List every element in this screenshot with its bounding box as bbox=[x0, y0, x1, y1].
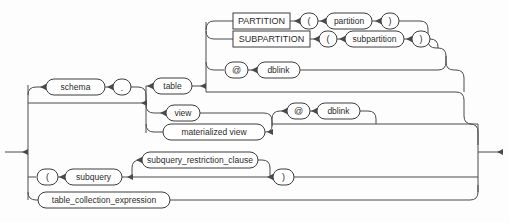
dblink-table-label: dblink bbox=[267, 65, 290, 75]
node-rparen-subquery: ) bbox=[273, 169, 294, 185]
subquery-label: subquery bbox=[76, 172, 112, 182]
lparen-subquery-label: ( bbox=[46, 172, 49, 182]
table-arrow bbox=[147, 83, 153, 89]
at-view-label: @ bbox=[294, 106, 303, 116]
tce-enter-rail bbox=[28, 192, 38, 200]
node-lparen-partition: ( bbox=[300, 13, 318, 29]
node-dblink-view: dblink bbox=[317, 103, 360, 119]
rparen-partition-label: ) bbox=[389, 16, 392, 26]
src-arrow bbox=[136, 157, 142, 163]
partition-enter-rail bbox=[206, 21, 233, 30]
src-enter-rail bbox=[132, 160, 142, 177]
node-rparen-subpartition: ) bbox=[412, 31, 430, 47]
node-lparen-subpartition: ( bbox=[319, 31, 337, 47]
subpartition-enter-rail bbox=[206, 31, 233, 39]
lparen-subpartition-label: ( bbox=[327, 34, 330, 44]
partition-lparen-arrow bbox=[294, 18, 300, 24]
partition-name-arrow bbox=[320, 18, 326, 24]
subpartition-keyword-label: SUBPARTITION bbox=[239, 34, 305, 44]
src-exit-rail bbox=[258, 160, 270, 177]
rparen-subquery-label: ) bbox=[282, 172, 285, 182]
dot-label: . bbox=[121, 83, 124, 93]
object-group-arrow bbox=[141, 100, 147, 106]
node-table-collection-expression: table_collection_expression bbox=[38, 192, 170, 208]
node-subquery: subquery bbox=[65, 169, 122, 185]
subpartition-rparen-arrow bbox=[406, 36, 412, 42]
dblink-table-exit-rail bbox=[300, 62, 446, 70]
node-at-table: @ bbox=[225, 62, 248, 78]
partition-rparen-arrow bbox=[375, 18, 381, 24]
table-group-merge-rail bbox=[464, 108, 478, 124]
table-collection-expression-label: table_collection_expression bbox=[52, 195, 157, 205]
partition-keyword-label: PARTITION bbox=[238, 16, 285, 26]
suffix-group-merge-rail bbox=[446, 62, 464, 92]
node-materialized-view: materialized view bbox=[163, 124, 265, 140]
node-schema: schema bbox=[46, 79, 105, 95]
node-dblink-table: dblink bbox=[257, 62, 300, 78]
lparen-partition-label: ( bbox=[308, 16, 311, 26]
subpartition-name-arrow bbox=[339, 36, 345, 42]
table-suffix-arrow bbox=[200, 83, 206, 89]
subquery-arrow bbox=[59, 174, 65, 180]
node-rparen-partition: ) bbox=[381, 13, 399, 29]
node-partition: partition bbox=[326, 13, 372, 29]
at-view-arrow bbox=[281, 108, 287, 114]
node-subpartition: subpartition bbox=[345, 31, 404, 47]
partition-label: partition bbox=[334, 16, 365, 26]
at-table-label: @ bbox=[232, 65, 241, 75]
subquery-restriction-clause-label: subquery_restriction_clause bbox=[147, 155, 253, 165]
dblink-view-exit-rail bbox=[360, 111, 376, 124]
rparen-subpartition-label: ) bbox=[420, 34, 423, 44]
at-table-enter-rail bbox=[206, 62, 224, 70]
node-view: view bbox=[166, 105, 200, 121]
subpartition-lparen-arrow bbox=[313, 36, 319, 42]
dblink-table-arrow bbox=[251, 67, 257, 73]
view-label: view bbox=[174, 108, 192, 118]
schema-label: schema bbox=[61, 82, 91, 92]
dblink-view-label: dblink bbox=[327, 106, 350, 116]
dot-to-group-rail bbox=[131, 87, 146, 103]
table-label: table bbox=[163, 81, 182, 91]
railroad-diagram: schema . table PARTITION ( partition bbox=[0, 0, 509, 223]
view-group-merge-rail bbox=[376, 124, 478, 145]
view-enter-rail bbox=[146, 105, 165, 113]
node-lparen-subquery: ( bbox=[37, 169, 58, 185]
node-dot: . bbox=[113, 79, 131, 95]
syntax-diagram-canvas: schema . table PARTITION ( partition bbox=[0, 0, 509, 223]
tce-exit-rail bbox=[170, 185, 478, 200]
node-partition-keyword: PARTITION bbox=[233, 13, 290, 29]
node-subquery-restriction-clause: subquery_restriction_clause bbox=[142, 152, 258, 168]
dblink-view-arrow bbox=[311, 108, 317, 114]
subquery-exit-arrow bbox=[127, 174, 133, 180]
partition-group-exit-rail bbox=[428, 34, 446, 62]
materialized-view-label: materialized view bbox=[181, 127, 247, 137]
exit-arrow bbox=[497, 149, 503, 155]
entry-arrow bbox=[22, 149, 28, 155]
node-at-view: @ bbox=[287, 103, 310, 119]
schema-enter-rail bbox=[28, 87, 44, 95]
dot-arrow bbox=[107, 84, 113, 90]
matview-merge-arrow bbox=[267, 129, 273, 135]
node-table: table bbox=[153, 78, 192, 94]
node-subpartition-keyword: SUBPARTITION bbox=[233, 31, 310, 47]
view-arrow bbox=[160, 110, 166, 116]
schema-arrow bbox=[40, 84, 46, 90]
matview-enter-rail bbox=[146, 124, 163, 132]
subpartition-label: subpartition bbox=[353, 34, 397, 44]
